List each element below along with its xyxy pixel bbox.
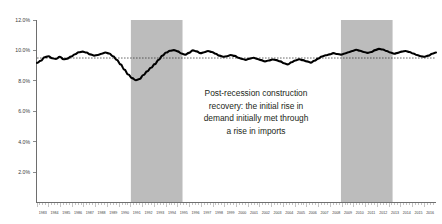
x-axis-tick-label: 2002 xyxy=(262,211,270,215)
annotation-line: demand initially met through xyxy=(204,113,309,123)
annotation-line: recovery: the initial rise in xyxy=(209,101,304,111)
x-axis-tick-label: 2012 xyxy=(379,211,387,215)
x-axis-tick-label: 1988 xyxy=(98,211,106,215)
y-axis-tick-label: 6.0% xyxy=(18,108,30,114)
x-axis-tick-label: 2004 xyxy=(285,211,293,215)
annotation-line: a rise in imports xyxy=(226,126,285,136)
x-axis-tick-label: 1986 xyxy=(74,211,82,215)
x-axis-tick-label: 2007 xyxy=(321,211,329,215)
y-axis-tick-label: 10.0% xyxy=(15,47,30,53)
x-axis-tick-label: 1985 xyxy=(62,211,70,215)
y-axis-labels-group: 12.0%10.0%8.0%6.0%4.0%2.0% xyxy=(15,17,30,175)
x-axis-tick-label: 1987 xyxy=(86,211,94,215)
recession-band-2 xyxy=(341,20,393,203)
x-axis-tick-label: 2008 xyxy=(332,211,340,215)
x-axis-tick-label: 2006 xyxy=(309,211,317,215)
x-axis-tick-label: 1994 xyxy=(168,211,176,215)
x-axis-tick-label: 1984 xyxy=(51,211,59,215)
x-axis-labels-group: 1983198419851986198719881989199019911992… xyxy=(39,211,434,215)
x-axis-tick-label: 2000 xyxy=(238,211,246,215)
y-axis-tick-label: 8.0% xyxy=(18,78,30,84)
x-axis-tick-label: 1999 xyxy=(227,211,235,215)
x-axis-tick-label: 1998 xyxy=(215,211,223,215)
y-axis-tick-label: 4.0% xyxy=(18,139,30,145)
y-axis-tick-label: 2.0% xyxy=(18,169,30,175)
x-axis-tick-label: 1995 xyxy=(180,211,188,215)
x-axis-tick-label: 2010 xyxy=(356,211,364,215)
chart-container: 12.0%10.0%8.0%6.0%4.0%2.0% 1983198419851… xyxy=(0,0,442,224)
x-axis-tick-label: 1990 xyxy=(121,211,129,215)
x-minor-ticks-group xyxy=(37,203,433,207)
x-axis-tick-label: 1991 xyxy=(133,211,141,215)
x-axis-tick-label: 1992 xyxy=(144,211,152,215)
x-axis-tick-label: 2015 xyxy=(414,211,422,215)
x-axis-tick-label: 2001 xyxy=(250,211,258,215)
recession-band-1 xyxy=(131,20,183,203)
x-axis-tick-label: 2013 xyxy=(391,211,399,215)
x-axis-tick-label: 1996 xyxy=(191,211,199,215)
x-axis-tick-label: 1989 xyxy=(109,211,117,215)
x-axis-tick-label: 2009 xyxy=(344,211,352,215)
y-axis-ticks-group xyxy=(33,20,37,172)
x-axis-tick-label: 1983 xyxy=(39,211,47,215)
x-axis-tick-label: 2014 xyxy=(403,211,411,215)
y-axis-tick-label: 12.0% xyxy=(15,17,30,23)
x-axis-tick-label: 2011 xyxy=(368,211,376,215)
x-axis-tick-label: 2016 xyxy=(426,211,434,215)
x-axis-tick-label: 1997 xyxy=(203,211,211,215)
annotation-line: Post-recession construction xyxy=(205,88,308,98)
recession-bands-group xyxy=(131,20,393,203)
x-axis-tick-label: 1993 xyxy=(156,211,164,215)
x-axis-tick-label: 2003 xyxy=(274,211,282,215)
x-axis-tick-label: 2005 xyxy=(297,211,305,215)
annotation-text-group: Post-recession constructionrecovery: the… xyxy=(204,88,309,136)
line-chart-svg: 12.0%10.0%8.0%6.0%4.0%2.0% 1983198419851… xyxy=(0,0,442,224)
